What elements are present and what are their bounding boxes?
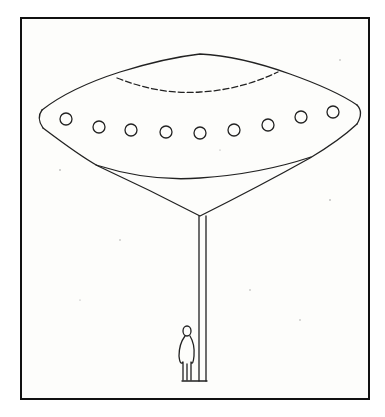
figure-icon [179, 326, 194, 380]
beam-column [199, 216, 206, 381]
saucer-rim-left [39, 110, 43, 128]
dome-arc [117, 72, 278, 92]
saucer-lower-hull [43, 124, 357, 216]
portholes [60, 113, 72, 125]
porthole-icon [60, 113, 72, 125]
saucer-rim-right [357, 105, 361, 124]
saucer-top [42, 54, 357, 110]
ufo-drawing [0, 0, 385, 417]
